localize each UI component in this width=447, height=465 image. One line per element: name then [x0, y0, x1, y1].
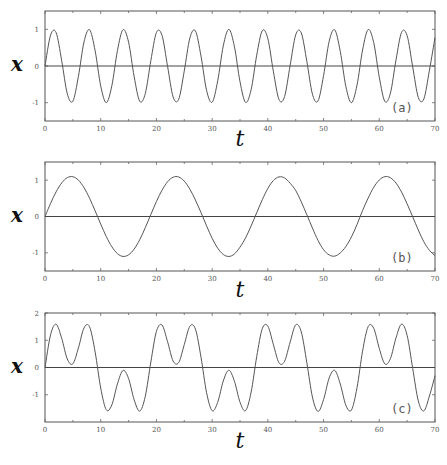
panel-label: (c): [391, 402, 413, 416]
x-tick-label: 20: [152, 125, 161, 133]
y-tick-label: 0: [35, 63, 39, 71]
y-axis-label: x: [10, 354, 24, 378]
y-tick-label: -1: [32, 99, 39, 107]
x-tick-label: 0: [43, 125, 47, 133]
y-tick-label: -1: [32, 249, 39, 257]
x-tick-label: 40: [263, 275, 272, 283]
x-tick-label: 70: [431, 125, 440, 133]
x-tick-label: 30: [208, 275, 217, 283]
x-tick-label: 10: [96, 275, 105, 283]
x-tick-label: 40: [263, 426, 272, 434]
x-tick-label: 20: [152, 426, 161, 434]
y-axis-label: x: [10, 203, 24, 227]
x-axis-label: t: [236, 428, 245, 453]
x-tick-label: 10: [96, 426, 105, 434]
y-tick-label: 1: [35, 177, 39, 185]
x-tick-label: 60: [375, 125, 384, 133]
x-axis-label: t: [236, 277, 245, 302]
x-tick-label: 40: [263, 125, 272, 133]
x-tick-label: 60: [375, 275, 384, 283]
x-tick-label: 70: [431, 426, 440, 434]
y-tick-label: 1: [35, 337, 39, 345]
x-axis-label: t: [236, 126, 245, 151]
x-tick-label: 50: [319, 275, 328, 283]
panel-a: 01020304050607010-1(a)tx: [10, 11, 439, 151]
x-tick-label: 50: [319, 426, 328, 434]
x-tick-label: 0: [43, 426, 47, 434]
panel-c: 010203040506070210-1(c)tx: [10, 310, 439, 454]
y-tick-label: 1: [35, 26, 39, 34]
x-tick-label: 10: [96, 125, 105, 133]
y-tick-label: 2: [35, 310, 39, 318]
x-tick-label: 70: [431, 275, 440, 283]
figure: 01020304050607010-1(a)tx 010203040506070…: [0, 0, 447, 465]
panel-label: (a): [391, 101, 413, 115]
y-tick-label: 0: [35, 364, 39, 372]
x-tick-label: 30: [208, 426, 217, 434]
panel-label: (b): [391, 251, 413, 265]
x-tick-label: 0: [43, 275, 47, 283]
y-axis-label: x: [10, 52, 24, 76]
x-tick-label: 50: [319, 125, 328, 133]
x-tick-label: 60: [375, 426, 384, 434]
y-tick-label: 0: [35, 213, 39, 221]
panel-b: 01020304050607010-1(b)tx: [10, 162, 439, 302]
y-tick-label: -1: [32, 391, 39, 399]
x-tick-label: 30: [208, 125, 217, 133]
x-tick-label: 20: [152, 275, 161, 283]
